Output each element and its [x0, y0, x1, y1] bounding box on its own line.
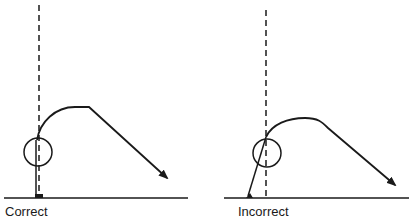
trajectory-arrow [37, 107, 167, 178]
panel-correct [4, 5, 188, 198]
joint-circle [24, 138, 52, 166]
foot-mark [35, 194, 43, 198]
joint-circle [253, 139, 281, 167]
diagram-canvas [0, 0, 417, 224]
label-correct: Correct [5, 204, 48, 219]
panel-incorrect [224, 10, 409, 198]
foot-mark [246, 193, 253, 198]
trajectory-arrow [266, 118, 395, 185]
label-incorrect: Incorrect [238, 204, 289, 219]
